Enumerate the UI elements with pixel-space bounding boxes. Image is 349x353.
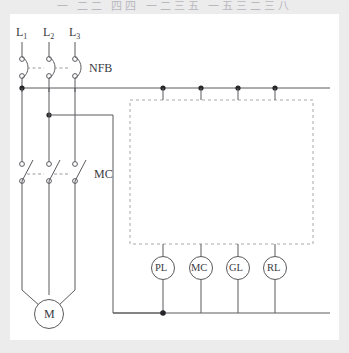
lamp-stems-lower — [163, 280, 275, 314]
junction-dot-bottom-rail — [160, 310, 166, 316]
nfb-pole-2 — [47, 57, 55, 92]
label-lamp-gl: GL — [229, 263, 243, 274]
mc-contact-pole-3 — [73, 160, 86, 290]
label-supply-l1: L1 — [16, 26, 27, 41]
label-mc-contactor: MC — [94, 168, 113, 180]
top-caption-text: 一 二二 四四 一二三五 一五三二三八 — [0, 0, 349, 12]
nfb-pole-3 — [73, 57, 81, 92]
l2-control-branch — [46, 112, 163, 313]
label-motor: M — [44, 308, 55, 320]
lamp-feed-mc — [198, 85, 203, 100]
lamp-feed-pl — [160, 85, 165, 100]
lamp-feed-rl — [272, 85, 277, 100]
diagram-panel: L1 L2 L3 NFB MC M PL MC GL RL — [10, 14, 339, 340]
mc-contact-pole-2 — [47, 160, 60, 295]
circuit-diagram-svg — [10, 14, 339, 340]
label-nfb: NFB — [89, 62, 112, 74]
bottom-return-rail — [113, 310, 330, 316]
phase-conductors-upper — [22, 88, 75, 162]
label-supply-l2: L2 — [43, 26, 54, 41]
label-lamp-rl: RL — [267, 263, 280, 274]
mc-contact-pole-1 — [20, 160, 33, 290]
screenshot-root: 一 二二 四四 一二三五 一五三二三八 — [0, 0, 349, 353]
lamp-stems-upper — [163, 244, 275, 257]
label-supply-l3: L3 — [69, 26, 80, 41]
top-power-rail — [19, 85, 330, 90]
control-circuit-enclosure — [130, 100, 313, 244]
label-lamp-mc: MC — [191, 263, 207, 274]
label-lamp-pl: PL — [155, 263, 167, 274]
lamp-feed-gl — [235, 85, 240, 100]
